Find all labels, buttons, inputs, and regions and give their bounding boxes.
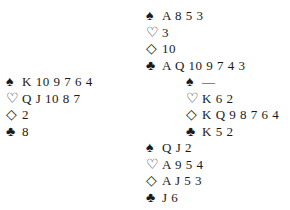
west-clubs: ♣8 [6,124,93,141]
heart-icon: ♡ [146,157,162,174]
south-spades: ♠Q J 2 [146,140,203,157]
west-diamonds-cards: 2 [22,107,29,124]
spade-icon: ♠ [146,140,162,157]
north-spades: ♠A 8 5 3 [146,8,246,25]
west-hand: ♠K 10 9 7 6 4 ♡Q J 10 8 7 ◇2 ♣8 [6,74,93,140]
west-clubs-cards: 8 [22,124,29,141]
east-spades: ♠— [186,74,279,91]
east-diamonds: ◇K Q 9 8 7 6 4 [186,107,279,124]
east-hearts: ♡K 6 2 [186,91,279,108]
west-hearts-cards: Q J 10 8 7 [22,91,80,108]
diamond-icon: ◇ [186,107,202,124]
west-spades-cards: K 10 9 7 6 4 [22,74,93,91]
west-hearts: ♡Q J 10 8 7 [6,91,93,108]
club-icon: ♣ [186,124,202,141]
north-clubs: ♣A Q 10 9 7 4 3 [146,58,246,75]
east-hearts-cards: K 6 2 [202,91,233,108]
north-clubs-cards: A Q 10 9 7 4 3 [162,58,246,75]
north-hand: ♠A 8 5 3 ♡3 ◇10 ♣A Q 10 9 7 4 3 [146,8,246,74]
spade-icon: ♠ [186,74,202,91]
club-icon: ♣ [6,124,22,141]
east-clubs-cards: K 5 2 [202,124,233,141]
east-diamonds-cards: K Q 9 8 7 6 4 [202,107,279,124]
east-hand: ♠— ♡K 6 2 ◇K Q 9 8 7 6 4 ♣K 5 2 [186,74,279,140]
west-spades: ♠K 10 9 7 6 4 [6,74,93,91]
south-clubs-cards: J 6 [162,190,178,207]
south-diamonds: ◇A J 5 3 [146,173,203,190]
spade-icon: ♠ [6,74,22,91]
club-icon: ♣ [146,58,162,75]
west-diamonds: ◇2 [6,107,93,124]
heart-icon: ♡ [6,91,22,108]
south-spades-cards: Q J 2 [162,140,192,157]
heart-icon: ♡ [146,25,162,42]
south-hearts-cards: A 9 5 4 [162,157,203,174]
north-hearts: ♡3 [146,25,246,42]
south-clubs: ♣J 6 [146,190,203,207]
north-diamonds-cards: 10 [162,41,176,58]
diamond-icon: ◇ [146,173,162,190]
east-spades-cards: — [202,74,216,91]
north-spades-cards: A 8 5 3 [162,8,203,25]
spade-icon: ♠ [146,8,162,25]
diamond-icon: ◇ [6,107,22,124]
heart-icon: ♡ [186,91,202,108]
south-diamonds-cards: A J 5 3 [162,173,202,190]
south-hearts: ♡A 9 5 4 [146,157,203,174]
north-hearts-cards: 3 [162,25,169,42]
south-hand: ♠Q J 2 ♡A 9 5 4 ◇A J 5 3 ♣J 6 [146,140,203,206]
club-icon: ♣ [146,190,162,207]
east-clubs: ♣K 5 2 [186,124,279,141]
north-diamonds: ◇10 [146,41,246,58]
diamond-icon: ◇ [146,41,162,58]
